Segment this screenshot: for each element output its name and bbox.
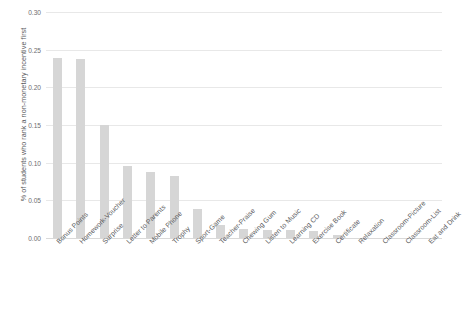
bar[interactable]: [170, 176, 179, 238]
plot-area: 0.000.050.100.150.200.250.30: [46, 12, 442, 238]
bar-series: [46, 12, 442, 238]
y-tick-label: 0.00: [28, 235, 41, 242]
y-tick-label: 0.20: [28, 84, 41, 91]
y-tick-label: 0.30: [28, 9, 41, 16]
bar-slot[interactable]: [279, 12, 302, 238]
bar-slot[interactable]: [186, 12, 209, 238]
x-axis-labels: Bonus PointsHomework-VoucherSurpriseLett…: [46, 240, 442, 314]
bar-slot[interactable]: [302, 12, 325, 238]
y-axis-title: % of students who rank a non-monetary in…: [19, 20, 28, 210]
bar-slot[interactable]: [256, 12, 279, 238]
y-tick-label: 0.10: [28, 159, 41, 166]
y-tick-label: 0.25: [28, 46, 41, 53]
bar-slot[interactable]: [162, 12, 185, 238]
bar[interactable]: [53, 58, 62, 238]
bar[interactable]: [146, 172, 155, 238]
bar-slot[interactable]: [69, 12, 92, 238]
y-tick-label: 0.05: [28, 197, 41, 204]
bar-slot[interactable]: [326, 12, 349, 238]
bar-slot[interactable]: [349, 12, 372, 238]
bar-slot[interactable]: [46, 12, 69, 238]
bar-slot[interactable]: [232, 12, 255, 238]
bar-slot[interactable]: [372, 12, 395, 238]
y-tick-label: 0.15: [28, 122, 41, 129]
bar-slot[interactable]: [209, 12, 232, 238]
